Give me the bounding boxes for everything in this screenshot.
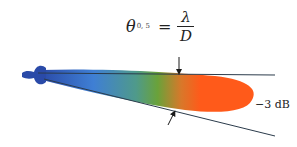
antenna-beam-diagram: θ 0, 5 = λ D [0, 0, 297, 147]
lower-arrow [168, 113, 174, 125]
beam-graphic [0, 0, 297, 147]
minus-3db-label: −3 dB [255, 98, 290, 111]
antenna-feed [22, 66, 46, 85]
main-lobe [40, 69, 254, 111]
